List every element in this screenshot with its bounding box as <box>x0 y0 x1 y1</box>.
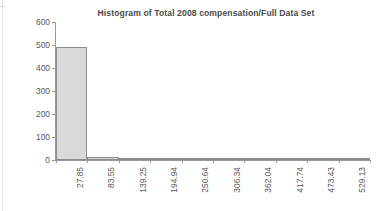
y-axis-tick-mark <box>52 91 56 92</box>
y-axis-tick-label: 0 <box>45 155 50 165</box>
x-axis-tick-label: 250.64 <box>197 165 207 191</box>
x-axis-tick-mark <box>119 160 120 163</box>
x-axis-tick-label: 194.94 <box>166 165 176 191</box>
x-axis-tick-label-text: 194.94 <box>169 167 179 193</box>
x-axis-tick-label: 473.43 <box>323 165 333 191</box>
bar-series <box>56 22 370 160</box>
x-axis-ticks: 27.8583.55139.25194.94250.64306.34362.04… <box>56 160 370 206</box>
y-axis-tick-mark <box>52 68 56 69</box>
x-axis-tick-label-text: 306.34 <box>232 167 242 193</box>
y-axis-tick-label: 200 <box>36 109 50 119</box>
plot-area: 0100200300400500600 <box>56 22 370 160</box>
x-axis-tick-mark <box>182 160 183 163</box>
scan-artifact-line <box>2 0 3 211</box>
x-axis-tick-label: 306.34 <box>229 165 239 191</box>
x-axis-tick-label: 417.74 <box>292 165 302 191</box>
x-axis-tick-mark <box>87 160 88 163</box>
x-axis-tick-mark <box>339 160 340 163</box>
y-axis-tick-mark <box>52 114 56 115</box>
x-axis-tick-mark <box>150 160 151 163</box>
x-axis-tick-label-text: 250.64 <box>200 167 210 193</box>
histogram-bar <box>56 47 87 160</box>
x-axis-tick-label-text: 529.13 <box>357 167 367 193</box>
histogram-screenshot: Histogram of Total 2008 compensation/Ful… <box>0 0 376 211</box>
scan-artifact-tick <box>0 6 5 7</box>
x-axis-tick-label-text: 362.04 <box>263 167 273 193</box>
y-axis-tick-label: 600 <box>36 17 50 27</box>
x-axis-tick-mark <box>244 160 245 163</box>
y-axis-tick-mark <box>52 137 56 138</box>
x-axis-tick-mark <box>307 160 308 163</box>
x-axis-tick-label: 362.04 <box>260 165 270 191</box>
x-axis-tick-label: 83.55 <box>103 165 113 186</box>
x-axis-tick-mark <box>276 160 277 163</box>
y-axis-tick-label: 100 <box>36 132 50 142</box>
x-axis-tick-label-text: 27.85 <box>75 167 85 188</box>
y-axis-tick-label: 400 <box>36 63 50 73</box>
chart-title: Histogram of Total 2008 compensation/Ful… <box>56 8 356 18</box>
x-axis-tick-label: 27.85 <box>72 165 82 186</box>
y-axis-tick-label: 300 <box>36 86 50 96</box>
x-axis-tick-label: 529.13 <box>354 165 364 191</box>
x-axis-tick-mark <box>56 160 57 163</box>
y-axis-tick-label: 500 <box>36 40 50 50</box>
y-axis-tick-mark <box>52 45 56 46</box>
x-axis-tick-label-text: 473.43 <box>326 167 336 193</box>
y-axis-tick-mark <box>52 22 56 23</box>
x-axis-tick-mark <box>213 160 214 163</box>
x-axis-tick-label-text: 83.55 <box>106 167 116 188</box>
x-axis-tick-label-text: 139.25 <box>138 167 148 193</box>
x-axis-tick-label: 139.25 <box>135 165 145 191</box>
x-axis-tick-mark <box>370 160 371 163</box>
x-axis-tick-label-text: 417.74 <box>295 167 305 193</box>
